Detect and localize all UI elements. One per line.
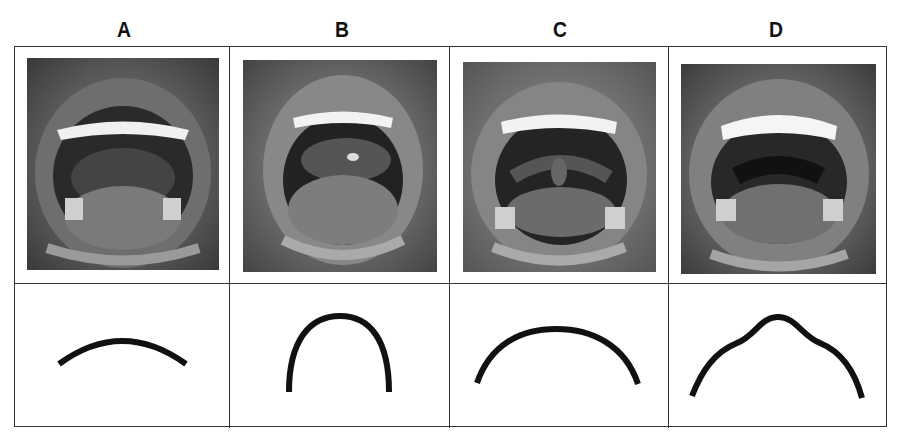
column-label-d: D [758, 17, 793, 43]
column-divider [449, 46, 450, 428]
mouth-photo-b [243, 60, 437, 272]
mouth-photo-a [27, 58, 219, 270]
column-divider [668, 46, 669, 428]
mouth-photo-c [463, 62, 656, 272]
column-divider [229, 46, 230, 428]
mouth-photo-d [681, 64, 876, 274]
row-divider [14, 283, 887, 284]
column-label-b: B [324, 17, 359, 43]
column-label-c: C [542, 17, 577, 43]
column-label-a: A [106, 17, 141, 43]
